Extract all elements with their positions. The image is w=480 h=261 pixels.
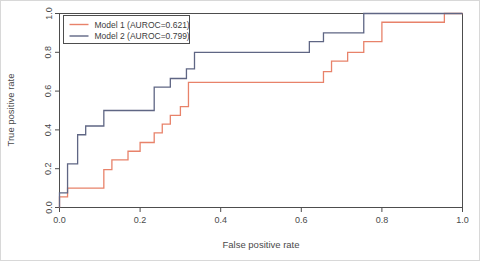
- x-tick-label: 0.4: [214, 215, 227, 225]
- chart-legend: Model 1 (AUROC=0.621)Model 2 (AUROC=0.79…: [64, 16, 190, 44]
- y-tick-label: 0.2: [44, 162, 54, 175]
- roc-plot-canvas: 0.00.20.40.60.81.00.00.20.40.60.81.0 Fal…: [1, 1, 480, 261]
- x-tick-label: 0.6: [295, 215, 308, 225]
- roc-curve-figure: 0.00.20.40.60.81.00.00.20.40.60.81.0 Fal…: [0, 0, 480, 261]
- x-tick-label: 0.8: [376, 215, 389, 225]
- x-tick-label: 0.0: [53, 215, 66, 225]
- y-axis-title: True positive rate: [5, 73, 16, 146]
- y-tick-label: 0.6: [44, 85, 54, 98]
- y-tick-label: 0.0: [44, 201, 54, 214]
- y-tick-label: 1.0: [44, 7, 54, 20]
- x-tick-label: 0.2: [134, 215, 147, 225]
- y-tick-label: 0.8: [44, 46, 54, 59]
- legend-label-1: Model 1 (AUROC=0.621): [95, 20, 190, 30]
- x-tick-label: 1.0: [456, 215, 469, 225]
- legend-label-2: Model 2 (AUROC=0.799): [95, 31, 190, 41]
- y-tick-label: 0.4: [44, 124, 54, 137]
- x-axis-title: False positive rate: [222, 239, 299, 250]
